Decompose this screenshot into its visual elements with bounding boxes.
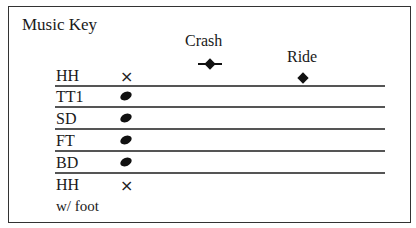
footnote-label: w/ foot [56, 197, 99, 215]
row-label-ft: FT [56, 132, 75, 150]
x-notehead-icon: × [120, 69, 133, 85]
staff-line-3 [55, 128, 385, 130]
crash-label: Crash [185, 32, 222, 50]
ride-label: Ride [287, 48, 317, 66]
x-notehead-icon: × [120, 178, 133, 194]
staff-line-2 [55, 106, 385, 108]
row-label-sd: SD [56, 110, 76, 128]
staff-line-1 [55, 85, 385, 87]
row-label-bd: BD [56, 154, 78, 172]
row-label-tt1: TT1 [56, 88, 84, 106]
key-title: Music Key [22, 15, 97, 35]
row-label-hh-foot: HH [56, 176, 79, 194]
staff-line-5 [55, 172, 385, 174]
row-label-hh: HH [56, 67, 79, 85]
staff-line-4 [55, 150, 385, 152]
